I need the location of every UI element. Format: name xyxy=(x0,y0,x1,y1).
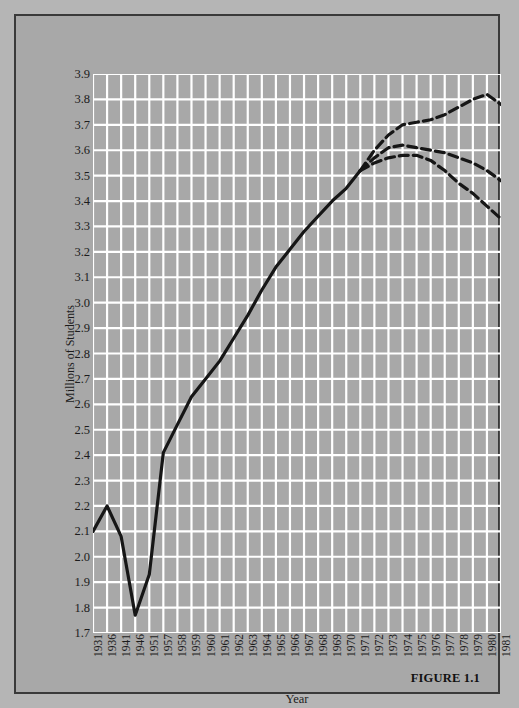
x-axis-tick-label: 1962 xyxy=(234,634,246,690)
x-axis-tick-label: 1981 xyxy=(501,634,513,690)
y-axis-tick-label: 1.9 xyxy=(48,576,90,589)
x-axis-tick-label: 1960 xyxy=(206,634,218,690)
y-axis-tick-label: 3.7 xyxy=(48,119,90,132)
y-axis-ticks: 3.93.83.73.63.53.43.33.23.13.02.92.82.72… xyxy=(42,74,90,633)
x-axis-tick-label: 1958 xyxy=(177,634,189,690)
y-axis-tick-label: 3.6 xyxy=(48,144,90,157)
x-axis-title: Year xyxy=(93,692,501,707)
y-axis-tick-label: 3.0 xyxy=(48,296,90,309)
y-axis-tick-label: 3.5 xyxy=(48,169,90,182)
y-axis-tick-label: 2.6 xyxy=(48,398,90,411)
x-axis-tick-label: 1936 xyxy=(107,634,119,690)
y-axis-tick-label: 2.3 xyxy=(48,474,90,487)
figure-panel: Millions of Students 3.93.83.73.63.53.43… xyxy=(14,14,500,694)
y-axis-tick-label: 2.4 xyxy=(48,449,90,462)
y-axis-tick-label: 2.9 xyxy=(48,322,90,335)
x-axis-tick-label: 1968 xyxy=(318,634,330,690)
y-axis-tick-label: 3.8 xyxy=(48,93,90,106)
y-axis-tick-label: 2.2 xyxy=(48,500,90,513)
x-axis-tick-label: 1967 xyxy=(304,634,316,690)
x-axis-tick-label: 1963 xyxy=(248,634,260,690)
x-axis-tick-label: 1941 xyxy=(121,634,133,690)
x-axis-tick-label: 1971 xyxy=(360,634,372,690)
x-axis-tick-label: 1931 xyxy=(93,634,105,690)
figure-container: Millions of Students 3.93.83.73.63.53.43… xyxy=(0,0,519,708)
y-axis-tick-label: 3.4 xyxy=(48,195,90,208)
figure-caption: FIGURE 1.1 xyxy=(411,671,480,686)
x-axis-tick-label: 1970 xyxy=(346,634,358,690)
y-axis-tick-label: 2.5 xyxy=(48,423,90,436)
y-axis-tick-label: 3.2 xyxy=(48,246,90,259)
y-axis-tick-label: 1.7 xyxy=(48,627,90,640)
x-axis-tick-label: 1973 xyxy=(388,634,400,690)
x-axis-tick-label: 1972 xyxy=(374,634,386,690)
y-axis-tick-label: 3.9 xyxy=(48,68,90,81)
y-axis-tick-label: 2.1 xyxy=(48,525,90,538)
x-axis-tick-label: 1964 xyxy=(262,634,274,690)
x-axis-tick-label: 1959 xyxy=(191,634,203,690)
x-axis-tick-label: 1957 xyxy=(163,634,175,690)
y-axis-tick-label: 3.1 xyxy=(48,271,90,284)
x-axis-tick-label: 1951 xyxy=(149,634,161,690)
y-axis-tick-label: 2.0 xyxy=(48,551,90,564)
y-axis-tick-label: 1.8 xyxy=(48,601,90,614)
x-axis-tick-label: 1980 xyxy=(487,634,499,690)
y-axis-tick-label: 2.7 xyxy=(48,373,90,386)
data-series-layer xyxy=(93,74,501,633)
x-axis-tick-label: 1961 xyxy=(220,634,232,690)
y-axis-tick-label: 3.3 xyxy=(48,220,90,233)
x-axis-tick-label: 1969 xyxy=(332,634,344,690)
x-axis-tick-label: 1946 xyxy=(135,634,147,690)
x-axis-tick-label: 1965 xyxy=(276,634,288,690)
y-axis-tick-label: 2.8 xyxy=(48,347,90,360)
x-axis-tick-label: 1966 xyxy=(290,634,302,690)
plot-area xyxy=(93,74,501,633)
